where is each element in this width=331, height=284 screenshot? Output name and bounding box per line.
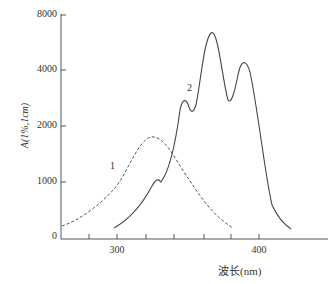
- uv-absorption-chart: 8000 4000 2000 1000 0 300 400 A(1%,1cm) …: [0, 0, 331, 284]
- series-1-curve: [62, 137, 233, 228]
- x-tick-300: 300: [102, 244, 132, 255]
- y-tick-8000: 8000: [17, 8, 57, 19]
- y-ticks: [61, 15, 66, 182]
- x-ticks: [89, 234, 259, 239]
- y-axis-label: A(1%,1cm): [19, 86, 30, 166]
- y-tick-0: 0: [17, 230, 57, 241]
- y-tick-4000: 4000: [17, 63, 57, 74]
- x-axis-label: 波长(nm): [218, 262, 261, 278]
- y-tick-1000: 1000: [17, 175, 57, 186]
- series-1-label: 1: [110, 160, 115, 171]
- x-tick-400: 400: [244, 244, 274, 255]
- series-2-label: 2: [187, 82, 192, 93]
- chart-plot-area: [0, 0, 331, 284]
